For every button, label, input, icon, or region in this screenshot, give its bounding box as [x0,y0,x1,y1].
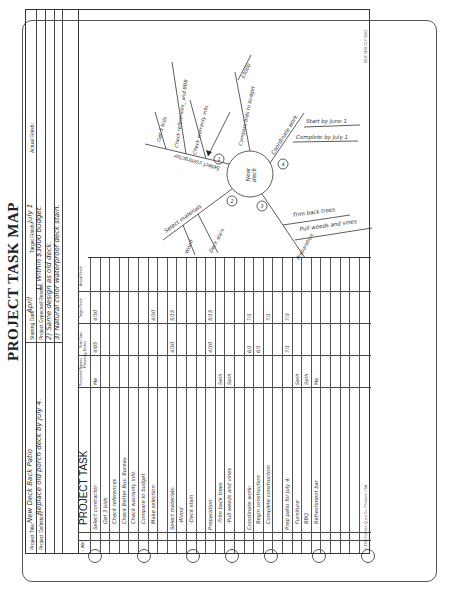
project-definition-label: Project Definition: [38,511,44,550]
task-text: -Wood [178,507,184,524]
row-divider [224,258,225,553]
task-start-cell: 4/30 [169,342,175,353]
row-divider [340,258,341,553]
task-start-cell: 4/05 [92,342,98,353]
task-person-cell: Me [92,378,98,385]
task-text: Make selection [150,485,156,524]
task-text: Prep patio for July 4: [284,477,290,530]
task-text: Select contractor: [92,484,98,530]
task-target-cell: 4/30 [92,310,98,321]
row-divider [205,258,206,553]
task-person-cell: Seth [217,374,223,385]
row-divider [157,258,158,553]
row-divider [215,258,216,553]
project-title-label: Project Title: [29,522,35,550]
row-divider [100,258,101,553]
project-title-value: New Deck Back Patio [26,449,34,523]
task-start-cell: 6/1 [246,345,252,353]
task-text: Refreshment bar [313,480,319,524]
row-divider [128,258,129,553]
target-finish-value: July 1 [26,204,34,223]
task-text: Check Better Bus. Bureau [121,457,127,524]
task-column-header: PROJECT TASK [78,451,89,525]
task-person-cell: Seth [226,374,232,385]
task-target-cell: 4/30 [150,310,156,321]
task-text: Compare to budget [140,473,146,524]
task-target-cell: 7/1 [265,313,271,321]
task-text: Begin construction [255,475,261,524]
row-divider [90,258,91,553]
row-divider [176,258,177,553]
starting-date-label: Starting Date: [29,309,35,340]
row-divider [138,258,139,553]
divider [26,342,62,343]
row-divider [119,258,120,553]
row-divider [109,258,110,553]
starting-date-value: April [26,297,34,313]
expected-result-2: 2) Same design as old deck. [45,241,53,340]
check-column-header: ✓ ABC [81,540,85,552]
task-target-cell: 5/15 [169,310,175,321]
row-divider [349,258,350,553]
task-text: -Pull weeds and vines [226,468,232,524]
task-text: Furniture [294,500,300,524]
page-title: PROJECT TASK MAP [5,9,22,554]
row-divider [359,258,360,553]
row-divider [292,258,293,553]
row-divider [148,258,149,553]
task-start-cell: 7/1 [284,345,290,353]
row-divider [282,258,283,553]
row-divider [234,258,235,553]
expected-results-label: Project Expected Results: [38,283,44,340]
row-divider [311,258,312,553]
divider [62,10,63,553]
start-date-column-header: Start Date [79,326,83,354]
task-start-cell: 6/1 [255,345,261,353]
task-start-cell: 4/30 [207,342,213,353]
task-person-cell: Seth [303,374,309,385]
task-text: Select materials: [169,486,175,530]
row-divider [320,258,321,553]
form-frame: Project Title: New Deck Back Patio Proje… [25,9,370,554]
task-text: Complete construction [265,465,271,524]
actual-finish-label: Actual Finish: [29,123,35,153]
row-divider [186,258,187,553]
task-text: Check references [111,479,117,524]
row-divider [272,258,273,553]
task-map-page: PROJECT TASK MAP Project Title: New Deck… [0,9,374,554]
expected-result-1: 1) Within $3000 budget. [35,205,43,291]
expected-result-3: 3) Natural color waterproof deck stain. [53,204,61,340]
row-divider [167,258,168,553]
row-divider [301,258,302,553]
task-target-cell: 5/15 [207,310,213,321]
task-person-cell: Seth [294,374,300,385]
task-text: BBQ [303,513,309,524]
task-text: -Deck stain [188,495,194,524]
row-divider [196,258,197,553]
task-text: Preparation: [207,498,213,530]
project-definition-value: Replace old porch deck by July 4. [35,399,43,515]
target-finish-column-header: Target Finish [79,294,83,322]
task-text: Get 3 bids [102,497,108,524]
row-divider [330,258,331,553]
task-table: ✓ ABC PROJECT TASK Personnel Names Start… [88,257,371,553]
task-target-cell: 7/3 [284,313,290,321]
row-divider [253,258,254,553]
form-code-footer: MOF 2193 CLF 4193 [364,30,368,63]
row-divider [244,258,245,553]
copyright-footer: © 1992 Franklin Quest Co. Printed in USA [364,485,368,550]
task-text: -Trim back trees [217,482,223,524]
row-divider [263,258,264,553]
actual-finish-column-header: Actual Finish [79,262,83,290]
task-text: Check warranty info. [130,470,136,524]
task-person-cell: Me [313,378,319,385]
task-target-cell: 7/1 [246,313,252,321]
personnel-column-header: Personnel Names [79,358,83,386]
task-text: Coordinate work: [246,486,252,530]
